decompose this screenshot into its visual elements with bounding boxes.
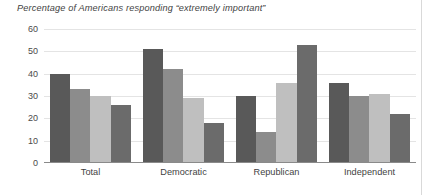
bar-group-republican [236,29,316,163]
bar [329,83,349,163]
y-axis: 0102030405060 [0,29,38,163]
x-axis-tick-label: Total [81,167,100,177]
x-axis-line [44,162,416,163]
chart-title: Percentage of Americans responding “extr… [17,3,266,13]
y-axis-tick-label: 40 [28,69,38,79]
bar [236,96,256,163]
x-axis-tick-label: Republican [254,167,300,177]
y-axis-tick-label: 0 [33,158,38,168]
bar [70,89,90,163]
bar [390,114,410,163]
y-axis-tick-label: 30 [28,91,38,101]
y-axis-tick-label: 60 [28,24,38,34]
bar [50,74,70,163]
bar-chart: Percentage of Americans responding “extr… [0,0,422,195]
bar [204,123,224,163]
y-axis-tick-label: 50 [28,46,38,56]
bar [143,49,163,163]
bars-layer [44,29,416,163]
y-axis-tick-label: 10 [28,136,38,146]
bar-group-total [50,29,130,163]
bar [163,69,183,163]
plot-area [44,29,416,163]
bar-group-democratic [143,29,223,163]
bar [369,94,389,163]
bar [256,132,276,163]
x-axis-tick-label: Democratic [160,167,206,177]
bar [111,105,131,163]
bar [183,98,203,163]
bar [276,83,296,163]
bar [349,96,369,163]
bar [90,96,110,163]
x-axis: TotalDemocraticRepublicanIndependent [44,167,416,187]
bar-group-independent [329,29,409,163]
x-axis-tick-label: Independent [344,167,395,177]
y-axis-tick-label: 20 [28,113,38,123]
bar [297,45,317,163]
